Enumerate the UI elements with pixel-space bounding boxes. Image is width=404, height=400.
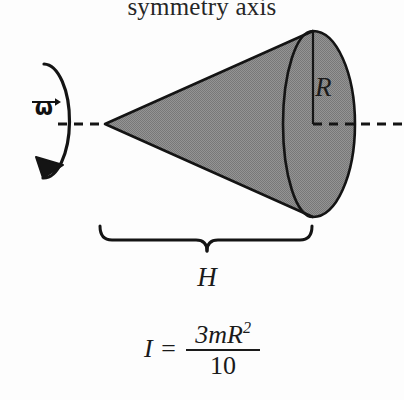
moment-of-inertia-formula: I = 3mR2 10 xyxy=(0,320,404,379)
height-label: H xyxy=(0,262,404,293)
rotation-arrowhead xyxy=(36,157,63,178)
formula-fraction: 3mR2 10 xyxy=(186,320,260,379)
rotation-indicator xyxy=(36,64,70,178)
angular-velocity-label: ω xyxy=(24,98,64,119)
height-brace xyxy=(100,226,312,251)
formula-numerator-base: 3mR xyxy=(195,320,243,349)
formula-numerator: 3mR2 xyxy=(189,320,257,349)
radius-label: R xyxy=(315,72,332,103)
formula-equals-sign: = xyxy=(160,334,178,364)
formula-numerator-exponent: 2 xyxy=(243,319,251,336)
formula-denominator: 10 xyxy=(204,351,242,379)
cone-moment-of-inertia-diagram: symmetry axis xyxy=(0,0,404,400)
formula-quantity: I xyxy=(144,334,153,364)
